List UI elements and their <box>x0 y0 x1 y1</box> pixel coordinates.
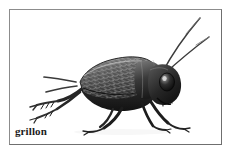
cricket-illustration <box>10 10 221 144</box>
head <box>148 64 181 105</box>
hind-leg <box>30 88 83 123</box>
front-leg <box>142 102 190 133</box>
cerci <box>44 77 77 92</box>
eye-highlight <box>162 76 166 81</box>
ground-shadow <box>74 129 170 135</box>
antenna-long-upper <box>162 18 200 73</box>
plate-caption: grillon <box>15 125 47 137</box>
illustration-plate: grillon <box>9 9 222 145</box>
eye <box>160 73 175 91</box>
image-canvas: grillon <box>0 0 234 155</box>
